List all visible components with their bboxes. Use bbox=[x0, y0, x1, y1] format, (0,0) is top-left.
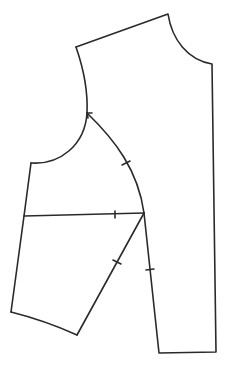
pattern-diagram bbox=[0, 0, 227, 367]
bodice-outline bbox=[76, 14, 216, 353]
slant-seam bbox=[77, 213, 144, 335]
armhole-lower-curve bbox=[31, 113, 87, 163]
side-seam-notch-icon bbox=[146, 269, 154, 270]
hem-curve bbox=[11, 312, 77, 335]
sleeve-cap-arc bbox=[87, 113, 144, 213]
sleeve-left-side bbox=[11, 163, 31, 312]
pattern-canvas bbox=[0, 0, 227, 367]
bicep-line bbox=[24, 213, 144, 216]
armhole-upper-curve bbox=[76, 47, 87, 113]
